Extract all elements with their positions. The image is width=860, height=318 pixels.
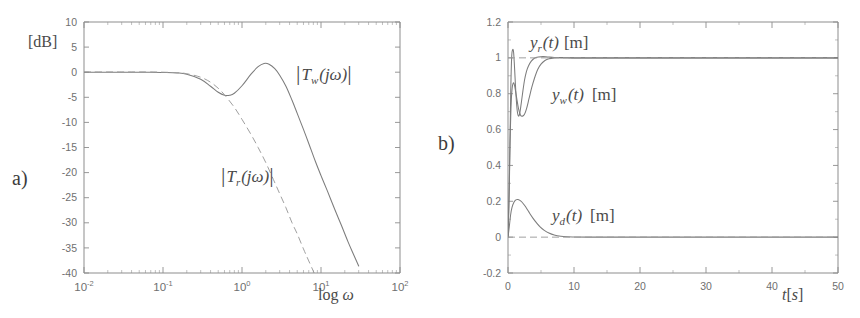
panel-b-xtick-label: 40 bbox=[766, 280, 778, 292]
panel-a-ytick-label: -25 bbox=[62, 191, 77, 203]
panel-a-ytick-label: -15 bbox=[62, 141, 77, 153]
panel-b-ytick-label: 0.2 bbox=[486, 195, 501, 207]
panel-a-bode-plot: a) [dB] 1050-5-10-15-20-25-30-35-4010-21… bbox=[0, 0, 430, 318]
panel-a-ytick-label: 5 bbox=[71, 41, 77, 53]
panel-a-xtick-label: 10-2 bbox=[74, 279, 93, 293]
panel-b-xtick-label: 30 bbox=[700, 280, 712, 292]
panel-b-ytick-label: 0.4 bbox=[486, 159, 501, 171]
panel-a-ytick-label: -40 bbox=[62, 267, 77, 279]
curve-|T_r(jω)| bbox=[84, 72, 327, 298]
panel-a-ytick-label: -5 bbox=[68, 91, 77, 103]
panel-a-ytick-label: -35 bbox=[62, 242, 77, 254]
bode-plot-svg: a) [dB] 1050-5-10-15-20-25-30-35-4010-21… bbox=[0, 0, 430, 318]
curve-label-Tw: |Tw(jω)| bbox=[296, 60, 352, 86]
panel-a-letter: a) bbox=[12, 167, 28, 190]
panel-a-ytick-label: -10 bbox=[62, 116, 77, 128]
panel-b-time-plot: b) 1.210.80.60.40.20-0.201020304050 t[s]… bbox=[430, 0, 860, 318]
panel-a-ytick-label: -30 bbox=[62, 216, 77, 228]
curve-label-Tr: |Tr(jω)| bbox=[221, 162, 274, 188]
panel-a-axes-frame bbox=[84, 22, 400, 273]
curve-label-yw: yw(t)[m] bbox=[550, 85, 616, 106]
curve-label-yr: yr(t)[m] bbox=[528, 33, 588, 54]
panel-a-ylabel: [dB] bbox=[28, 33, 57, 50]
panel-b-xtick-label: 10 bbox=[568, 280, 580, 292]
panel-b-ytick-label: -0.2 bbox=[483, 267, 501, 279]
panel-a-ytick-label: -20 bbox=[62, 166, 77, 178]
panel-a-ytick-label: 0 bbox=[71, 66, 77, 78]
panel-a-xlabel: log ω bbox=[318, 286, 354, 304]
panel-a-ytick-label: 10 bbox=[65, 16, 77, 28]
panel-b-ytick-label: 1.2 bbox=[486, 16, 501, 28]
panel-a-ticklabels: 1050-5-10-15-20-25-30-35-4010-210-110010… bbox=[62, 16, 409, 293]
panel-a-xtick-label: 100 bbox=[234, 279, 251, 293]
panel-b-ytick-label: 1 bbox=[495, 51, 501, 63]
panel-b-xtick-label: 0 bbox=[505, 280, 511, 292]
panel-b-ytick-label: 0.8 bbox=[486, 87, 501, 99]
panel-b-xtick-label: 20 bbox=[634, 280, 646, 292]
panel-b-xtick-label: 50 bbox=[832, 280, 844, 292]
panel-b-ytick-label: 0.6 bbox=[486, 123, 501, 135]
panel-a-xtick-label: 102 bbox=[392, 279, 409, 293]
panel-a-xtick-label: 10-1 bbox=[153, 279, 172, 293]
time-plot-svg: b) 1.210.80.60.40.20-0.201020304050 t[s]… bbox=[430, 0, 860, 318]
panel-a-ticks bbox=[84, 22, 400, 273]
panel-b-letter: b) bbox=[438, 132, 455, 155]
panel-b-xlabel: t[s] bbox=[782, 286, 803, 303]
panel-b-ytick-label: 0 bbox=[495, 231, 501, 243]
figure-container: a) [dB] 1050-5-10-15-20-25-30-35-4010-21… bbox=[0, 0, 860, 318]
curve-label-yd: yd(t)[m] bbox=[550, 206, 615, 227]
